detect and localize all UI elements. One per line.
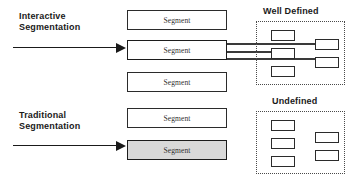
well-defined-title: Well Defined (263, 6, 319, 16)
segment-bar: Segment (127, 72, 227, 92)
outcome-item (315, 150, 339, 161)
segment-label: Segment (164, 16, 191, 25)
interactive-flow-arrow (13, 42, 126, 54)
segment-label: Segment (164, 46, 191, 55)
well-defined-group (256, 21, 345, 85)
diagram-canvas: Interactive Segmentation Traditional Seg… (0, 0, 360, 187)
segment-bar: Segment (127, 10, 227, 30)
outcome-item (271, 138, 295, 149)
segment-label: Segment (164, 146, 191, 155)
arrow-head-icon (116, 141, 126, 151)
undefined-group (256, 111, 345, 174)
arrow-head-icon (116, 43, 126, 53)
traditional-segmentation-label: Traditional Segmentation (19, 110, 80, 132)
segment-bar-shaded: Segment (127, 140, 227, 160)
arrow-shaft (13, 47, 117, 48)
outcome-item (315, 39, 339, 50)
outcome-item (271, 156, 295, 167)
outcome-item (271, 30, 295, 41)
segment-bar: Segment (127, 108, 227, 128)
segment-label: Segment (164, 78, 191, 87)
outcome-item (315, 57, 339, 68)
segment-label: Segment (164, 114, 191, 123)
outcome-item (271, 66, 295, 77)
outcome-item (271, 48, 295, 59)
traditional-flow-arrow (13, 140, 126, 152)
interactive-segmentation-label: Interactive Segmentation (19, 11, 80, 33)
arrow-shaft (13, 145, 117, 146)
outcome-item (315, 132, 339, 143)
outcome-item (271, 120, 295, 131)
undefined-title: Undefined (272, 96, 317, 106)
segment-bar-active: Segment (127, 40, 227, 60)
